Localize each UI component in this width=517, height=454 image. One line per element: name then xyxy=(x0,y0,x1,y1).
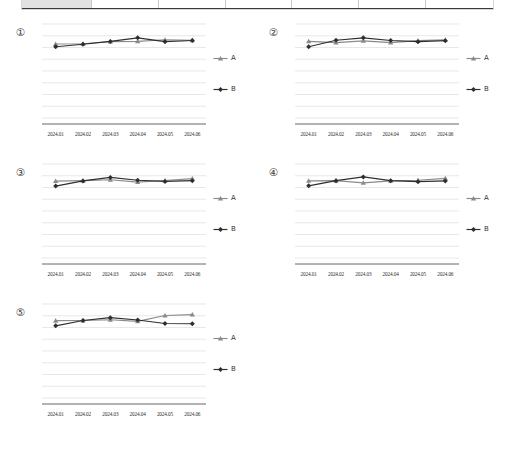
legend-marker-diamond-icon xyxy=(466,85,481,94)
chart-block-4: ④AB2024.012024.022024.032024.042024.0520… xyxy=(266,158,514,298)
x-axis-tick-label: 2024.03 xyxy=(97,130,124,138)
data-point-marker-diamond xyxy=(361,35,366,40)
plot-area xyxy=(42,22,206,126)
legend-marker-triangle-icon xyxy=(213,194,228,203)
x-axis-tick-label: 2024.04 xyxy=(124,270,151,278)
legend-label: A xyxy=(231,194,236,203)
x-axis-tick-label: 2024.02 xyxy=(322,270,349,278)
legend-label: B xyxy=(484,85,489,94)
legend-item-a[interactable]: A xyxy=(466,194,512,203)
chart-legend: AB xyxy=(213,334,259,396)
table-cell xyxy=(292,0,359,8)
x-axis-tick-label: 2024.01 xyxy=(42,130,69,138)
x-axis-tick-label: 2024.01 xyxy=(42,410,69,418)
data-point-marker-diamond xyxy=(471,227,476,232)
legend-label: A xyxy=(484,194,489,203)
series-line-b xyxy=(56,318,193,326)
legend-marker-triangle-icon xyxy=(213,334,228,343)
data-point-marker-diamond xyxy=(190,38,195,43)
x-axis-tick-label: 2024.01 xyxy=(295,270,322,278)
legend-item-b[interactable]: B xyxy=(213,365,259,374)
legend-label: A xyxy=(231,334,236,343)
x-axis-tick-label: 2024.06 xyxy=(179,410,206,418)
x-axis-tick-label: 2024.01 xyxy=(295,130,322,138)
x-axis-tick-label: 2024.04 xyxy=(377,130,404,138)
chart-row-3: ⑤AB2024.012024.022024.032024.042024.0520… xyxy=(0,298,517,438)
legend-label: B xyxy=(484,225,489,234)
x-axis-tick-label: 2024.04 xyxy=(124,130,151,138)
data-point-marker-diamond xyxy=(81,178,86,183)
data-point-marker-diamond xyxy=(471,87,476,92)
legend-item-b[interactable]: B xyxy=(466,85,512,94)
legend-label: B xyxy=(231,85,236,94)
chart-index-label: ② xyxy=(269,26,278,39)
x-axis-tick-label: 2024.05 xyxy=(151,130,178,138)
series-line-b xyxy=(309,38,446,47)
data-point-marker-diamond xyxy=(443,38,448,43)
table-cell xyxy=(92,0,159,8)
x-axis-labels: 2024.012024.022024.032024.042024.052024.… xyxy=(42,270,206,278)
legend-item-a[interactable]: A xyxy=(213,54,259,63)
series-line-b xyxy=(56,177,193,186)
legend-marker-diamond-icon xyxy=(466,225,481,234)
x-axis-tick-label: 2024.02 xyxy=(69,130,96,138)
legend-item-a[interactable]: A xyxy=(213,334,259,343)
chart-legend: AB xyxy=(466,54,512,116)
data-point-marker-diamond xyxy=(163,179,168,184)
chart-block-2: ②AB2024.012024.022024.032024.042024.0520… xyxy=(266,18,514,158)
data-point-marker-diamond xyxy=(361,174,366,179)
x-axis-tick-label: 2024.06 xyxy=(432,130,459,138)
x-axis-tick-label: 2024.04 xyxy=(377,270,404,278)
legend-label: B xyxy=(231,365,236,374)
cropped-data-table xyxy=(21,0,494,10)
x-axis-tick-label: 2024.06 xyxy=(432,270,459,278)
x-axis-tick-label: 2024.02 xyxy=(69,410,96,418)
legend-marker-diamond-icon xyxy=(213,85,228,94)
series-line-b xyxy=(56,38,193,47)
plot-area xyxy=(42,162,206,266)
chart-row-1: ①AB2024.012024.022024.032024.042024.0520… xyxy=(0,18,517,158)
data-point-marker-diamond xyxy=(53,184,58,189)
plot-area xyxy=(42,302,206,406)
chart-legend: AB xyxy=(213,54,259,116)
table-cell xyxy=(22,0,92,8)
chart-block-5: ⑤AB2024.012024.022024.032024.042024.0520… xyxy=(13,298,261,438)
chart-index-label: ④ xyxy=(269,166,278,179)
x-axis-tick-label: 2024.02 xyxy=(69,270,96,278)
x-axis-tick-label: 2024.06 xyxy=(179,270,206,278)
chart-grid: ①AB2024.012024.022024.032024.042024.0520… xyxy=(0,18,517,438)
x-axis-labels: 2024.012024.022024.032024.042024.052024.… xyxy=(295,130,459,138)
legend-item-b[interactable]: B xyxy=(213,85,259,94)
table-cell xyxy=(226,0,293,8)
chart-legend: AB xyxy=(466,194,512,256)
legend-item-b[interactable]: B xyxy=(466,225,512,234)
x-axis-tick-label: 2024.05 xyxy=(404,270,431,278)
x-axis-labels: 2024.012024.022024.032024.042024.052024.… xyxy=(42,130,206,138)
table-header-row xyxy=(22,0,493,9)
legend-marker-triangle-icon xyxy=(466,54,481,63)
chart-index-label: ① xyxy=(16,26,25,39)
data-point-marker-diamond xyxy=(81,42,86,47)
chart-row-2: ③AB2024.012024.022024.032024.042024.0520… xyxy=(0,158,517,298)
x-axis-labels: 2024.012024.022024.032024.042024.052024.… xyxy=(295,270,459,278)
legend-label: A xyxy=(231,54,236,63)
x-axis-tick-label: 2024.06 xyxy=(179,130,206,138)
data-point-marker-diamond xyxy=(190,321,195,326)
legend-marker-triangle-icon xyxy=(213,54,228,63)
x-axis-tick-label: 2024.03 xyxy=(350,270,377,278)
x-axis-tick-label: 2024.05 xyxy=(404,130,431,138)
x-axis-tick-label: 2024.03 xyxy=(97,410,124,418)
data-point-marker-diamond xyxy=(218,87,223,92)
x-axis-tick-label: 2024.04 xyxy=(124,410,151,418)
x-axis-tick-label: 2024.02 xyxy=(322,130,349,138)
x-axis-tick-label: 2024.03 xyxy=(97,270,124,278)
legend-item-a[interactable]: A xyxy=(466,54,512,63)
plot-area xyxy=(295,22,459,126)
chart-block-3: ③AB2024.012024.022024.032024.042024.0520… xyxy=(13,158,261,298)
chart-index-label: ③ xyxy=(16,166,25,179)
data-point-marker-diamond xyxy=(306,44,311,49)
legend-item-a[interactable]: A xyxy=(213,194,259,203)
x-axis-tick-label: 2024.01 xyxy=(42,270,69,278)
legend-item-b[interactable]: B xyxy=(213,225,259,234)
data-point-marker-diamond xyxy=(163,321,168,326)
